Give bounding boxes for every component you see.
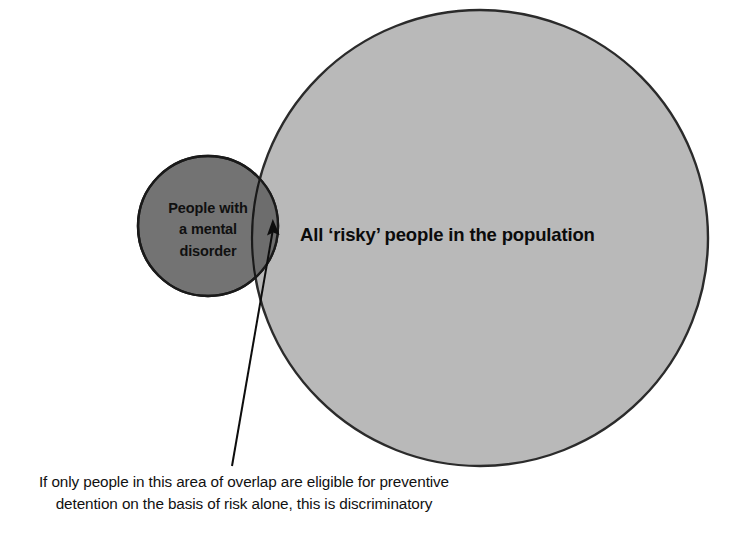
venn-diagram-canvas	[0, 0, 755, 534]
venn-diagram: People with a mental disorder All ‘risky…	[0, 0, 755, 534]
circle-risky-population	[252, 10, 708, 466]
